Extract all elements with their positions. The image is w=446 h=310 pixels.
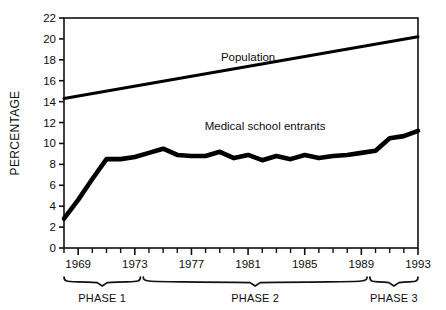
y-tick-label: 10 xyxy=(43,137,56,149)
x-tick-label: 1981 xyxy=(235,258,261,270)
series-label-0: Population xyxy=(221,51,275,63)
y-tick-label: 16 xyxy=(43,75,56,87)
y-axis-title: PERCENTAGE xyxy=(8,91,22,176)
x-tick-label: 1969 xyxy=(65,258,91,270)
x-axis-ticks xyxy=(64,248,418,255)
y-tick-label: 2 xyxy=(50,221,56,233)
x-tick-label: 1993 xyxy=(405,258,431,270)
y-tick-label: 0 xyxy=(50,242,56,254)
series-label-1: Medical school entrants xyxy=(205,120,326,132)
y-tick-label: 8 xyxy=(50,158,56,170)
x-tick-label: 1989 xyxy=(349,258,375,270)
y-tick-label: 4 xyxy=(50,200,57,212)
y-tick-label: 14 xyxy=(43,96,56,108)
phase-label: PHASE 2 xyxy=(231,292,279,304)
phase-label: PHASE 1 xyxy=(78,292,126,304)
x-axis-tick-labels: 1969197319771981198519891993 xyxy=(65,258,430,270)
y-tick-label: 22 xyxy=(43,12,56,24)
y-tick-label: 18 xyxy=(43,54,56,66)
phase-bracket xyxy=(370,277,418,286)
y-axis-ticks: 0246810121416182022 xyxy=(43,12,64,254)
x-tick-label: 1985 xyxy=(292,258,318,270)
phase-bracket xyxy=(64,277,140,286)
y-tick-label: 12 xyxy=(43,117,56,129)
phase-bracket-group: PHASE 1PHASE 2PHASE 3 xyxy=(64,277,418,304)
x-tick-label: 1973 xyxy=(122,258,148,270)
phase-label: PHASE 3 xyxy=(370,292,418,304)
x-tick-label: 1977 xyxy=(179,258,205,270)
y-tick-label: 6 xyxy=(50,179,56,191)
phase-bracket xyxy=(143,277,367,286)
y-tick-label: 20 xyxy=(43,33,56,45)
chart-figure: 0246810121416182022 19691973197719811985… xyxy=(0,0,446,310)
line-chart: 0246810121416182022 19691973197719811985… xyxy=(0,0,446,310)
